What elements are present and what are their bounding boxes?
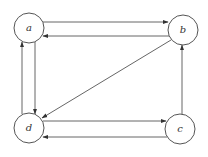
node-c: c — [165, 114, 195, 144]
node-a-label: a — [26, 22, 32, 33]
node-c-label: c — [177, 123, 183, 134]
node-b-label: b — [180, 24, 186, 35]
node-b: b — [168, 15, 198, 45]
directed-graph: a b c d — [0, 0, 208, 157]
node-d-label: d — [26, 122, 32, 133]
node-d: d — [14, 113, 44, 143]
node-a: a — [14, 13, 44, 43]
edge-b-to-d — [42, 40, 171, 118]
